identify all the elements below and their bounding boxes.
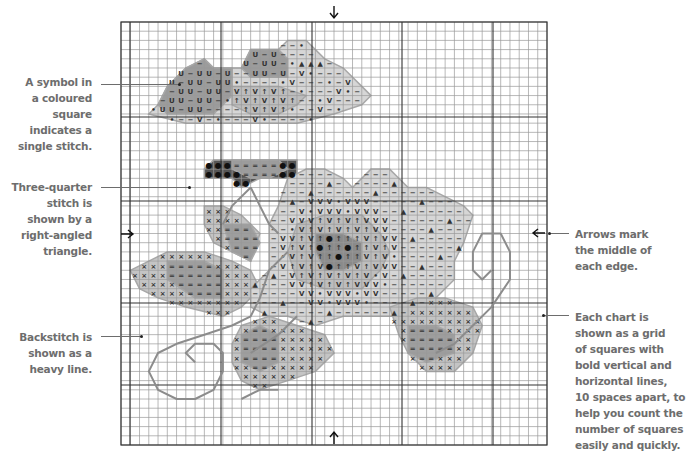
stitch-symbol: = — [438, 336, 444, 344]
stitch-symbol: ● — [326, 234, 333, 243]
stitch-symbol: − — [336, 180, 342, 188]
stitch-symbol: V — [354, 281, 360, 289]
stitch-symbol: ● — [289, 170, 296, 179]
stitch-symbol: × — [308, 355, 314, 363]
stitch-symbol: − — [419, 226, 425, 234]
stitch-symbol: − — [456, 217, 462, 225]
stitch-symbol: V — [364, 253, 370, 261]
stitch-symbol: − — [354, 97, 360, 105]
stitch-symbol: V — [290, 272, 296, 280]
stitch-symbol: ↑ — [336, 235, 342, 243]
stitch-symbol: ▲ — [308, 318, 314, 326]
stitch-symbol: × — [447, 309, 453, 317]
stitch-symbol: − — [336, 309, 342, 317]
stitch-symbol: = — [271, 171, 277, 179]
stitch-symbol: × — [447, 318, 453, 326]
stitch-symbol: × — [225, 299, 231, 307]
stitch-symbol: − — [289, 51, 295, 59]
stitch-symbol: − — [382, 180, 388, 188]
stitch-symbol: × — [465, 336, 471, 344]
stitch-symbol: = — [438, 327, 444, 335]
stitch-symbol: − — [215, 106, 221, 114]
stitch-symbol: ● — [205, 170, 212, 179]
stitch-symbol: − — [419, 235, 425, 243]
stitch-symbol: = — [178, 263, 184, 271]
stitch-symbol: U — [206, 97, 212, 105]
stitch-symbol: • — [151, 106, 155, 114]
stitch-symbol: − — [215, 97, 221, 105]
stitch-symbol: ↑ — [299, 235, 305, 243]
stitch-symbol: × — [438, 355, 444, 363]
stitch-symbol: = — [206, 290, 212, 298]
stitch-symbol: × — [243, 272, 249, 280]
stitch-symbol: − — [299, 180, 305, 188]
stitch-symbol: × — [225, 272, 231, 280]
stitch-symbol: − — [252, 60, 258, 68]
stitch-symbol: U — [206, 70, 212, 78]
stitch-symbol: − — [410, 290, 416, 298]
stitch-symbol: ↑ — [336, 263, 342, 271]
stitch-symbol: ● — [280, 170, 287, 179]
stitch-symbol: − — [280, 116, 286, 124]
stitch-symbol: − — [419, 244, 425, 252]
stitch-symbol: V — [253, 116, 259, 124]
stitch-symbol: ↑ — [317, 235, 323, 243]
stitch-symbol: − — [428, 189, 434, 197]
stitch-symbol: U — [188, 106, 194, 114]
stitch-symbol: U — [243, 60, 249, 68]
stitch-symbol: × — [299, 336, 305, 344]
stitch-symbol: − — [280, 217, 286, 225]
stitch-symbol: U — [215, 79, 221, 87]
stitch-symbol: • — [364, 299, 368, 307]
annotation-single-stitch: A symbol in a coloured square indicates … — [18, 74, 92, 154]
stitch-symbol: U — [206, 88, 212, 96]
stitch-symbol: = — [178, 272, 184, 280]
stitch-symbol: U — [262, 70, 268, 78]
stitch-symbol: = — [262, 171, 268, 179]
stitch-symbol: × — [326, 345, 332, 353]
stitch-symbol: • — [327, 299, 331, 307]
stitch-symbol: ↑ — [336, 244, 342, 252]
stitch-symbol: V — [345, 272, 351, 280]
stitch-symbol: ↑ — [373, 235, 379, 243]
stitch-symbol: × — [215, 208, 221, 216]
stitch-symbol: − — [299, 106, 305, 114]
stitch-symbol: − — [447, 244, 453, 252]
stitch-symbol: ↑ — [373, 253, 379, 261]
stitch-symbol: V — [364, 208, 370, 216]
stitch-symbol: V — [391, 235, 397, 243]
stitch-symbol: − — [336, 79, 342, 87]
stitch-symbol: − — [271, 290, 277, 298]
stitch-symbol: × — [299, 327, 305, 335]
stitch-symbol: − — [447, 253, 453, 261]
stitch-symbol: = — [252, 162, 258, 170]
stitch-symbol: − — [419, 208, 425, 216]
stitch-symbol: ↑ — [345, 281, 351, 289]
stitch-symbol: × — [234, 263, 240, 271]
stitch-symbol: − — [299, 171, 305, 179]
stitch-symbol: × — [447, 327, 453, 335]
stitch-symbol: • — [318, 97, 322, 105]
stitch-symbol: × — [234, 272, 240, 280]
stitch-symbol: − — [382, 198, 388, 206]
stitch-symbol: = — [252, 171, 258, 179]
stitch-symbol: − — [289, 309, 295, 317]
stitch-symbol: − — [363, 180, 369, 188]
stitch-symbol: ↑ — [354, 244, 360, 252]
stitch-symbol: − — [206, 106, 212, 114]
leader-backstitch — [101, 336, 141, 337]
stitch-symbol: ↑ — [354, 235, 360, 243]
stitch-symbol: − — [280, 208, 286, 216]
stitch-symbol: − — [326, 88, 332, 96]
stitch-symbol: − — [345, 97, 351, 105]
stitch-symbol: − — [308, 79, 314, 87]
stitch-symbol: − — [271, 235, 277, 243]
stitch-symbol: − — [428, 208, 434, 216]
stitch-symbol: − — [345, 189, 351, 197]
stitch-symbol: − — [234, 116, 240, 124]
stitch-symbol: − — [289, 116, 295, 124]
stitch-symbol: V — [354, 208, 360, 216]
stitch-symbol: ● — [326, 262, 333, 271]
stitch-symbol: × — [308, 336, 314, 344]
stitch-symbol: ↑ — [336, 272, 342, 280]
